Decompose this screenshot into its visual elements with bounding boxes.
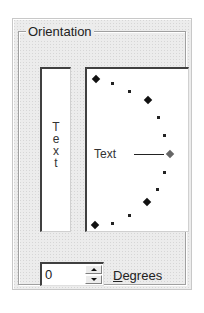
dot-icon[interactable] — [128, 214, 131, 217]
degrees-label-rest: egrees — [122, 268, 162, 283]
alignment-panel: Orientation T e x t — [12, 18, 192, 290]
diamond-icon-0deg-selected[interactable] — [166, 150, 174, 158]
triangle-down-icon — [91, 278, 97, 281]
dot-icon[interactable] — [111, 222, 114, 225]
orientation-group-label: Orientation — [26, 24, 94, 39]
diamond-icon-minus45deg[interactable] — [143, 198, 151, 206]
diamond-icon-90deg[interactable] — [92, 75, 100, 83]
dot-icon[interactable] — [157, 116, 160, 119]
degrees-input[interactable]: 0 — [45, 267, 52, 282]
vertical-text-label: T e x t — [42, 121, 70, 169]
spin-down-button[interactable] — [85, 275, 102, 284]
triangle-up-icon — [91, 268, 97, 271]
spin-up-button[interactable] — [85, 265, 102, 274]
dot-icon[interactable] — [163, 171, 166, 174]
degrees-label: Degrees — [113, 268, 162, 283]
dot-icon[interactable] — [128, 90, 131, 93]
diamond-icon-45deg[interactable] — [144, 96, 152, 104]
spin-buttons — [85, 265, 102, 284]
degrees-spinner[interactable]: 0 — [40, 262, 104, 286]
vertical-text-option[interactable]: T e x t — [40, 67, 71, 232]
degrees-mnemonic: D — [113, 268, 122, 283]
dot-icon[interactable] — [111, 82, 114, 85]
dot-icon[interactable] — [156, 188, 159, 191]
dial-pointer-line — [134, 154, 164, 155]
dial-text-label: Text — [94, 147, 116, 161]
orientation-dial[interactable]: Text — [85, 67, 189, 232]
vertical-letter: t — [42, 157, 70, 169]
orientation-groupbox: Orientation T e x t — [18, 31, 186, 285]
diamond-icon-minus90deg[interactable] — [91, 221, 99, 229]
dot-icon[interactable] — [163, 134, 166, 137]
